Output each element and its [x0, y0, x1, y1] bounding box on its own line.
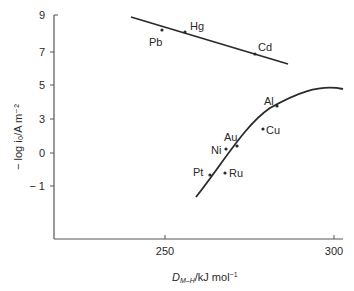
point-au: [235, 144, 238, 147]
point-label-ru: Ru: [229, 167, 243, 179]
x-tick-label: 300: [325, 245, 343, 257]
point-label-pt: Pt: [193, 166, 203, 178]
y-tick-label: 7: [39, 46, 45, 58]
y-tick-label: 9: [39, 9, 45, 21]
point-ni: [224, 147, 227, 150]
point-label-pb: Pb: [149, 36, 162, 48]
point-pb: [160, 28, 163, 31]
y-tick-label: 5: [39, 79, 45, 91]
x-axis-title: DM–H/kJ mol−1: [172, 271, 238, 284]
point-label-cu: Cu: [266, 124, 280, 136]
point-al: [275, 104, 278, 107]
point-hg: [183, 30, 186, 33]
point-pt: [208, 173, 211, 176]
point-ru: [223, 171, 226, 174]
y-tick-label: − 1: [29, 180, 45, 192]
x-ticks: 250 300: [156, 235, 343, 257]
y-axis-title: − log i₀/A m⁻²: [12, 104, 24, 170]
point-label-cd: Cd: [258, 41, 272, 53]
point-label-ni: Ni: [211, 144, 221, 156]
y-tick-label: 3: [39, 113, 45, 125]
point-cu: [261, 127, 264, 130]
point-label-al: Al: [264, 95, 274, 107]
x-tick-label: 250: [156, 245, 174, 257]
data-points: Pb Hg Cd Al Cu Au Ni Pt Ru: [149, 20, 280, 179]
chart: 9 7 5 3 0 − 1 250 300 − log i₀/A m⁻² DM–…: [0, 0, 354, 291]
y-tick-label: 0: [39, 147, 45, 159]
point-label-hg: Hg: [190, 20, 204, 32]
point-label-au: Au: [224, 131, 237, 143]
point-cd: [253, 52, 256, 55]
